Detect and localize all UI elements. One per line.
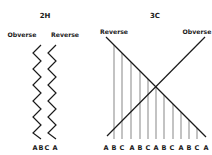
- bottom-label: C: [120, 144, 125, 152]
- bottom-label: A: [178, 144, 183, 152]
- bottom-label: C: [146, 144, 151, 152]
- bottom-label: B: [187, 144, 192, 152]
- obverse-zigzag-line: [33, 45, 41, 139]
- reverse-zigzag-line: [48, 45, 56, 139]
- bottom-label: B: [39, 144, 44, 152]
- panel-3c-bottom-labels: A B C A B C A B C A B C A: [103, 144, 208, 152]
- bottom-label: A: [153, 144, 158, 152]
- panel-3c-obverse-label: Obverse: [183, 28, 212, 35]
- bottom-label: C: [195, 144, 200, 152]
- bottom-label: A: [52, 144, 57, 152]
- panel-2h-obverse-label: Obverse: [8, 31, 37, 38]
- bottom-label: B: [112, 144, 117, 152]
- panel-3c-title: 3C: [150, 12, 160, 20]
- panel-3c: 3C Reverse Obverse A B C A B C A B: [100, 12, 211, 152]
- panel-2h-title: 2H: [40, 12, 51, 20]
- panel-2h-reverse-label: Reverse: [51, 31, 79, 38]
- bottom-label: A: [103, 144, 108, 152]
- hatch-lines: [114, 45, 197, 139]
- bottom-label: A: [32, 144, 37, 152]
- panel-3c-reverse-label: Reverse: [100, 28, 128, 35]
- panel-2h-bottom-labels: A B C A: [32, 144, 57, 152]
- bottom-label: A: [203, 144, 208, 152]
- bottom-label: A: [129, 144, 134, 152]
- diagram-figure: 2H Obverse Reverse A B C A 3C Reverse Ob…: [0, 0, 212, 155]
- bottom-label: B: [162, 144, 167, 152]
- bottom-label: B: [138, 144, 143, 152]
- bottom-label: C: [170, 144, 175, 152]
- bottom-label: C: [45, 144, 50, 152]
- panel-2h: 2H Obverse Reverse A B C A: [8, 12, 79, 152]
